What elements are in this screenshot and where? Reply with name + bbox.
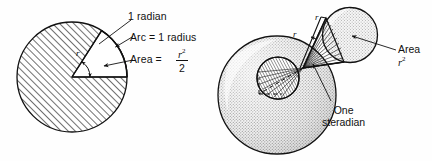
figure-canvas xyxy=(0,0,432,161)
label-radius-right-upper: r xyxy=(315,13,319,22)
figure-root: 1 radian Arc = 1 radius Area = r2 2 r r … xyxy=(0,0,432,161)
label-radius-left: r xyxy=(76,49,80,58)
label-area-prefix: Area = xyxy=(130,54,162,65)
area-word: Area xyxy=(398,43,420,55)
cone-edge-cap xyxy=(321,17,326,18)
label-one-radian: 1 radian xyxy=(128,11,167,22)
label-radius-right-lower: r xyxy=(293,30,297,39)
radian-diagram xyxy=(17,20,133,132)
label-one-steradian: One steradian xyxy=(322,104,365,129)
label-area-r-squared: Area r2 xyxy=(398,43,420,69)
area-fraction-denominator: 2 xyxy=(176,62,188,74)
area-fraction-numerator: r2 xyxy=(176,47,188,60)
one-steradian-line-2: steradian xyxy=(322,116,365,128)
area-r2-value: r2 xyxy=(398,55,420,69)
label-arc-equals-one-radius: Arc = 1 radius xyxy=(130,32,196,43)
label-area-fraction: r2 2 xyxy=(176,47,188,74)
one-steradian-line-1: One xyxy=(322,104,365,116)
steradian-diagram xyxy=(218,8,396,155)
